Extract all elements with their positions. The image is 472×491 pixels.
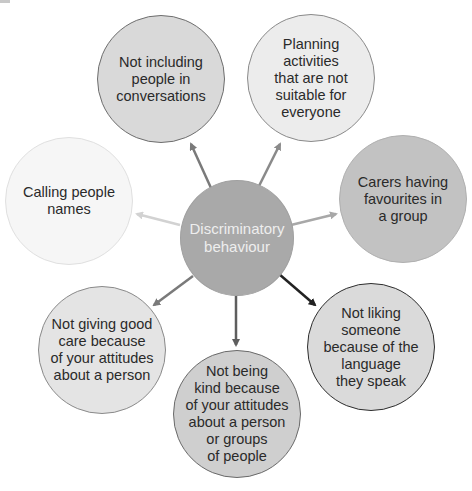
node-planning: Planning activities that are not suitabl… <box>247 14 375 142</box>
node-not-being-kind: Not being kind because of your attitudes… <box>173 350 301 478</box>
node-label: Not liking someone because of the langua… <box>317 305 424 390</box>
node-label: Not including people in conversations <box>110 54 211 105</box>
arrow-to-calling-names <box>137 214 180 225</box>
arrow-to-not-liking-language <box>279 274 315 305</box>
arrow-to-not-including <box>191 144 211 188</box>
arrow-to-not-giving-care <box>154 276 193 305</box>
node-label: Planning activities that are not suitabl… <box>268 36 353 121</box>
node-not-including: Not including people in conversations <box>97 15 225 143</box>
node-not-liking-language: Not liking someone because of the langua… <box>307 283 435 411</box>
node-label: Not being kind because of your attitudes… <box>179 363 294 465</box>
center-label: Discriminatory behaviour <box>183 220 290 256</box>
node-not-giving-care: Not giving good care because of your att… <box>38 286 166 414</box>
node-label: Not giving good care because of your att… <box>44 316 159 384</box>
node-calling-names: Calling people names <box>5 137 133 265</box>
node-label: Carers having favourites in a group <box>352 174 454 225</box>
arrow-to-carers-favourites <box>291 214 336 225</box>
node-label: Calling people names <box>17 184 121 218</box>
node-carers-favourites: Carers having favourites in a group <box>339 135 467 263</box>
arrow-to-planning <box>259 144 280 186</box>
node-center-discriminatory-behaviour: Discriminatory behaviour <box>180 180 294 296</box>
